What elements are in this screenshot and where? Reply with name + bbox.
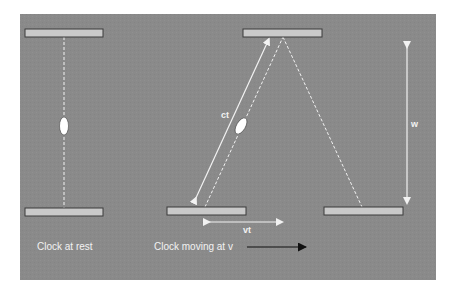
w-label: w bbox=[410, 119, 419, 129]
mirror-rest-top bbox=[25, 29, 103, 37]
mirror-moving-bottom-start bbox=[167, 207, 246, 215]
mirror-moving-top bbox=[243, 29, 322, 37]
ct-label: ct bbox=[221, 110, 229, 120]
mirror-moving-bottom-end bbox=[324, 207, 403, 215]
vt-label: vt bbox=[243, 225, 251, 235]
clock-moving-label: Clock moving at v bbox=[154, 241, 233, 252]
photon-rest-icon bbox=[60, 117, 69, 135]
light-clock-diagram: ct w vt Clock at rest Clock moving at v bbox=[0, 0, 452, 295]
clock-rest-label: Clock at rest bbox=[37, 241, 93, 252]
mirror-rest-bottom bbox=[25, 208, 103, 216]
